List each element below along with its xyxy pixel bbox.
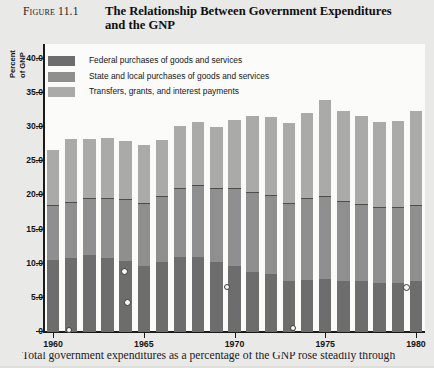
- y-axis-label-20-0: 20.0: [9, 189, 43, 199]
- bar-segment-transfers: [246, 116, 258, 193]
- bar-segment-divider: [119, 199, 131, 200]
- bar-segment-federal: [265, 274, 277, 332]
- bar-1971: [246, 116, 258, 332]
- bar-segment-transfers: [47, 150, 59, 205]
- x-axis-label-1975: 1975: [305, 339, 345, 349]
- bar-segment-divider: [83, 198, 95, 199]
- bar-segment-transfers: [210, 127, 222, 189]
- y-axis-label-15-0: 15.0: [9, 224, 43, 234]
- bar-segment-divider: [392, 207, 404, 208]
- x-axis-label-1980: 1980: [396, 339, 434, 349]
- bar-segment-transfers: [373, 122, 385, 208]
- bar-segment-federal: [174, 257, 186, 332]
- legend-swatch-state_local: [48, 72, 75, 82]
- bar-1973: [283, 123, 295, 332]
- figure-caption-text: Total government expenditures as a perce…: [22, 352, 422, 362]
- bar-segment-transfers: [392, 121, 404, 208]
- bar-segment-divider: [192, 185, 204, 186]
- bar-segment-divider: [138, 203, 150, 204]
- bar-segment-divider: [47, 205, 59, 206]
- bar-1965: [138, 145, 150, 332]
- bar-segment-state-local: [101, 199, 113, 258]
- scan-speck-2: [224, 284, 230, 290]
- bar-segment-federal: [138, 266, 150, 332]
- bar-segment-federal: [83, 255, 95, 332]
- bar-segment-state-local: [174, 189, 186, 257]
- bar-segment-state-local: [301, 199, 313, 280]
- legend-label-state_local: State and local purchases of goods and s…: [89, 71, 269, 82]
- bar-segment-state-local: [138, 204, 150, 266]
- bar-segment-federal: [47, 260, 59, 332]
- legend-swatch-federal: [48, 56, 75, 66]
- bar-segment-divider: [174, 188, 186, 189]
- scan-speck-1: [124, 299, 131, 306]
- bar-segment-federal: [246, 272, 258, 332]
- x-axis-tick-1960: [53, 333, 54, 338]
- bar-segment-state-local: [319, 197, 331, 279]
- bar-segment-state-local: [373, 208, 385, 283]
- bar-segment-state-local: [47, 206, 59, 260]
- bar-segment-transfers: [192, 122, 204, 186]
- legend-label-transfers: Transfers, grants, and interest payments: [89, 86, 239, 97]
- bar-segment-divider: [265, 195, 277, 196]
- bar-segment-transfers: [228, 120, 240, 189]
- bar-segment-divider: [355, 204, 367, 205]
- bar-1979: [392, 121, 404, 332]
- bar-segment-state-local: [337, 202, 349, 281]
- scan-speck-5: [290, 325, 296, 331]
- bar-1967: [174, 126, 186, 332]
- bar-segment-divider: [65, 202, 77, 203]
- bar-segment-federal: [373, 283, 385, 332]
- bar-segment-transfers: [410, 111, 422, 205]
- y-axis-label-0: 0: [9, 326, 43, 336]
- bar-segment-divider: [301, 198, 313, 199]
- bar-1980: [410, 111, 422, 332]
- bar-segment-state-local: [283, 204, 295, 281]
- bar-segment-federal: [156, 262, 168, 332]
- x-axis-tick-1975: [325, 333, 326, 338]
- bar-segment-federal: [392, 283, 404, 332]
- bar-segment-transfers: [83, 139, 95, 199]
- y-axis-label-25-0: 25.0: [9, 155, 43, 165]
- bar-segment-federal: [319, 279, 331, 332]
- bar-segment-transfers: [319, 100, 331, 198]
- scan-speck-0: [121, 268, 128, 275]
- legend-label-federal: Federal purchases of goods and services: [89, 55, 242, 66]
- bar-1974: [301, 113, 313, 332]
- bar-segment-divider: [283, 203, 295, 204]
- y-axis-label-30-0: 30.0: [9, 121, 43, 131]
- bar-segment-divider: [101, 198, 113, 199]
- bar-segment-transfers: [138, 145, 150, 204]
- bar-segment-divider: [246, 192, 258, 193]
- bar-segment-transfers: [119, 141, 131, 200]
- y-axis-label-40-0: 40.0: [9, 53, 43, 63]
- legend-swatch-transfers: [48, 87, 75, 97]
- bar-segment-divider: [228, 188, 240, 189]
- bar-segment-federal: [210, 262, 222, 332]
- bar-segment-transfers: [301, 113, 313, 199]
- y-axis-label-10-0: 10.0: [9, 258, 43, 268]
- bar-1962: [83, 139, 95, 332]
- scan-speck-3: [403, 284, 410, 291]
- bar-segment-state-local: [246, 193, 258, 272]
- bar-segment-state-local: [265, 196, 277, 274]
- x-axis-label-1960: 1960: [33, 339, 73, 349]
- bar-segment-transfers: [337, 111, 349, 203]
- x-axis-tick-1965: [144, 333, 145, 338]
- bar-1961: [65, 139, 77, 332]
- scan-speck-4: [66, 327, 72, 333]
- bar-segment-federal: [192, 257, 204, 332]
- bar-1972: [265, 117, 277, 332]
- bar-1963: [101, 138, 113, 332]
- bar-segment-state-local: [410, 206, 422, 282]
- bar-segment-transfers: [355, 116, 367, 205]
- bar-1968: [192, 122, 204, 332]
- bar-segment-state-local: [210, 189, 222, 261]
- bar-segment-federal: [355, 281, 367, 332]
- bar-segment-state-local: [392, 208, 404, 282]
- bar-segment-federal: [337, 281, 349, 332]
- bar-segment-state-local: [355, 205, 367, 282]
- y-axis-label-5-0: 5.0: [9, 292, 43, 302]
- bar-1975: [319, 100, 331, 332]
- bar-segment-divider: [337, 201, 349, 202]
